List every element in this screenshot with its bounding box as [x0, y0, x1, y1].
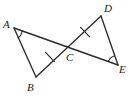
vertex-label-B: B: [27, 82, 34, 93]
segment-DE: [101, 16, 118, 65]
vertex-label-D: D: [104, 3, 112, 14]
angle-arc-A: [18, 31, 22, 38]
vertex-label-E: E: [119, 64, 126, 75]
geometry-figure: A B C D E: [0, 0, 138, 99]
geometry-canvas: [0, 0, 138, 99]
segment-BD: [36, 16, 101, 77]
tick-mark-BC: [46, 52, 55, 61]
angle-arc-E: [108, 56, 114, 62]
vertex-label-C: C: [66, 52, 73, 63]
vertex-label-A: A: [3, 19, 10, 30]
